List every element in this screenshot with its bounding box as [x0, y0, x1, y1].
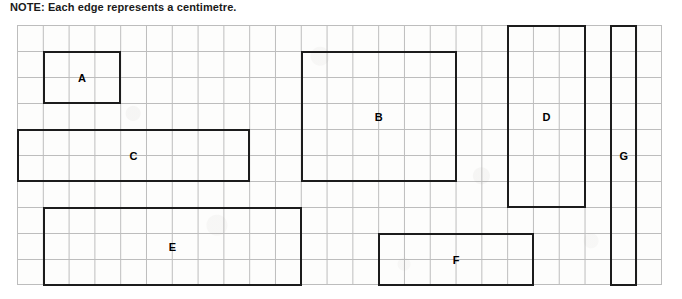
shape-label-d: D [542, 111, 550, 122]
shape-a: A [43, 51, 121, 104]
grid-worksheet: ABCDEFG [17, 25, 662, 285]
shape-label-f: F [453, 254, 460, 265]
shape-b: B [301, 51, 457, 182]
shape-label-e: E [169, 241, 176, 252]
grid-right-edge [661, 25, 662, 285]
note-text: NOTE: Each edge represents a centimetre. [10, 1, 237, 13]
shape-label-b: B [375, 111, 383, 122]
shape-f: F [378, 233, 534, 286]
shape-label-a: A [78, 72, 86, 83]
shape-c: C [17, 129, 250, 182]
shape-g: G [610, 25, 637, 286]
shape-e: E [43, 207, 302, 286]
shape-label-g: G [620, 150, 629, 161]
shape-d: D [507, 25, 585, 208]
shape-label-c: C [130, 150, 138, 161]
